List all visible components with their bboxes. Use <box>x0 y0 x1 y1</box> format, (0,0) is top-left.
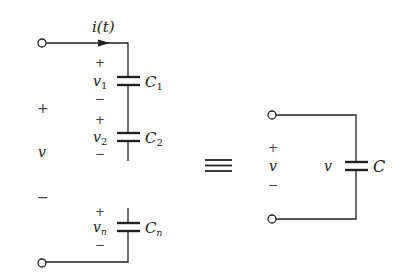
right-bottom-terminal <box>268 215 276 223</box>
right-v-label: v <box>269 158 277 174</box>
right-v-minus: − <box>268 178 278 192</box>
current-label: i(t) <box>92 18 115 36</box>
bottom-terminal <box>38 259 46 267</box>
right-bottom-wire <box>276 170 356 219</box>
top-terminal <box>38 39 46 47</box>
bottom-wire <box>46 231 128 262</box>
c-label: C <box>373 157 385 176</box>
v-minus: − <box>37 189 49 205</box>
v1-plus: + <box>95 56 105 70</box>
v-plus: + <box>37 100 49 116</box>
cn-label: Cn <box>145 219 162 238</box>
v1-label: v1 <box>93 73 107 91</box>
vn-label: vn <box>93 219 107 237</box>
left-circuit: i(t) + v1 − C1 + v2 − C2 + vn − Cn + v − <box>37 18 163 267</box>
current-arrow-icon <box>98 40 110 47</box>
right-top-terminal <box>268 111 276 119</box>
v2-label: v2 <box>93 129 107 147</box>
right-top-wire <box>276 115 356 162</box>
equivalence-symbol <box>205 160 232 171</box>
vn-minus: − <box>95 238 105 252</box>
v2-minus: − <box>95 147 105 161</box>
c-voltage-label: v <box>324 158 332 174</box>
v-label: v <box>38 144 46 160</box>
top-wire <box>46 43 128 77</box>
right-circuit: + v − v C <box>268 111 385 223</box>
vn-plus: + <box>95 205 105 219</box>
v2-plus: + <box>95 113 105 127</box>
series-capacitors-diagram: i(t) + v1 − C1 + v2 − C2 + vn − Cn + v − <box>0 0 405 280</box>
v1-minus: − <box>95 92 105 106</box>
c2-label: C2 <box>145 129 163 148</box>
c1-label: C1 <box>145 73 163 92</box>
right-v-plus: + <box>268 141 278 155</box>
